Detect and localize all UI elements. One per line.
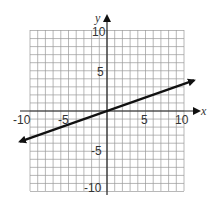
y-axis-label: y <box>94 11 101 25</box>
x-tick-neg10: -10 <box>13 113 31 127</box>
x-axis-label: x <box>200 104 207 118</box>
y-tick-5: 5 <box>97 65 104 79</box>
x-tick-neg5: -5 <box>58 113 69 127</box>
x-tick-10: 10 <box>175 113 189 127</box>
y-tick-neg10: -10 <box>84 181 102 195</box>
y-tick-10: 10 <box>92 25 106 39</box>
y-tick-neg5: -5 <box>91 144 102 158</box>
x-tick-5: 5 <box>141 113 148 127</box>
coordinate-plane: x y -10 -5 5 10 10 5 -5 -10 <box>0 0 208 197</box>
